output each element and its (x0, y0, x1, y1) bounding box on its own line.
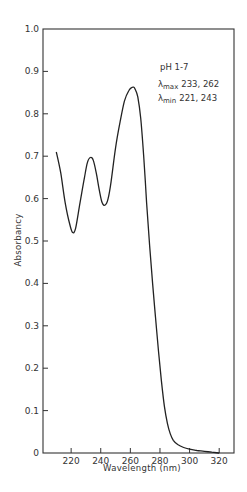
y-tick-label: 0.3 (25, 321, 39, 331)
y-tick-label: 1.0 (25, 24, 40, 34)
annotation-condition: pH 1-7 (160, 62, 188, 72)
y-tick-label: 0.6 (25, 194, 40, 204)
y-tick-label: 0.2 (25, 363, 39, 373)
y-tick-label: 0.5 (25, 236, 39, 246)
x-tick-label: 320 (211, 456, 228, 466)
y-axis-ticks: 00.10.20.30.40.50.60.70.80.91.0 (25, 24, 48, 458)
x-axis-title: Wavelength (nm) (103, 463, 181, 473)
y-tick-label: 0 (33, 448, 39, 458)
absorbance-spectrum-chart: 00.10.20.30.40.50.60.70.80.91.0 22024026… (0, 0, 247, 492)
y-axis-title: Absorbancy (13, 213, 23, 266)
x-tick-label: 300 (181, 456, 198, 466)
absorbance-curve (56, 87, 219, 453)
y-tick-label: 0.8 (25, 109, 40, 119)
y-tick-label: 0.4 (25, 278, 40, 288)
y-tick-label: 0.9 (25, 66, 40, 76)
y-tick-label: 0.7 (25, 151, 39, 161)
annotation-lambda-min: λmin221, 243 (158, 93, 217, 105)
x-tick-label: 220 (63, 456, 80, 466)
annotation-lambda-max: λmax233, 262 (158, 79, 219, 91)
y-tick-label: 0.1 (25, 406, 39, 416)
